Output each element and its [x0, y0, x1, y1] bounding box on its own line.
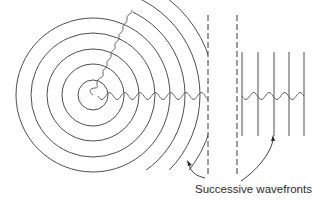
diagonal-wave-ray	[90, 10, 132, 95]
dashed-boundaries	[208, 15, 237, 176]
arrow-to-curved-wavefront	[189, 164, 205, 178]
caption-arrows	[187, 135, 275, 181]
arrow-to-plane-wavefront	[241, 139, 273, 181]
horizontal-wave-ray	[98, 93, 208, 100]
plane-wave-ray	[242, 93, 304, 100]
outer-arc-wavefronts	[0, 0, 215, 208]
caption-successive-wavefronts: Successive wavefronts	[195, 183, 312, 195]
wavefront-diagram	[0, 0, 319, 208]
arrowhead-left	[187, 160, 192, 166]
partial-arc-wavefront-3	[0, 0, 215, 208]
